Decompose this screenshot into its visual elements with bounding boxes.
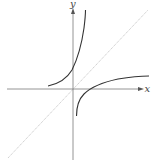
curve-upper-left	[48, 10, 86, 86]
x-axis-arrow-icon	[138, 87, 144, 91]
y-axis-label: y	[69, 0, 76, 9]
graph-canvas: x y	[0, 0, 151, 160]
x-axis-label: x	[145, 83, 151, 94]
curve-lower-right	[77, 76, 150, 116]
line-y-equals-x	[8, 10, 148, 158]
